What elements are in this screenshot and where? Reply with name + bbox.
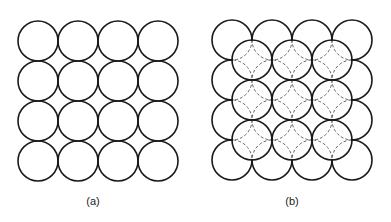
upper-circle [272,80,312,120]
upper-circle [312,80,352,120]
circle-packing-diagram [0,0,391,222]
lower-circle [212,20,252,60]
circle [138,141,178,181]
lower-circle [252,140,292,180]
upper-circle [232,40,272,80]
circle [98,61,138,101]
lower-circle [292,100,332,140]
upper-layer-circles [232,40,352,160]
circle [18,141,58,181]
upper-circle [232,120,272,160]
circle [138,61,178,101]
panel-a-square-packing [18,21,178,181]
lower-circle [292,20,332,60]
upper-circle [312,120,352,160]
circle [98,21,138,61]
circle [58,21,98,61]
lower-circle [212,100,252,140]
lower-circle [332,100,372,140]
lower-circle [212,60,252,100]
upper-circle [312,40,352,80]
circle [58,141,98,181]
lower-circle [252,60,292,100]
circle [58,101,98,141]
upper-circle [272,40,312,80]
circle [58,61,98,101]
panel-b-layered-packing [212,20,372,180]
upper-circle [272,120,312,160]
lower-circle [332,140,372,180]
circle [98,141,138,181]
lower-circle [252,20,292,60]
circle [138,21,178,61]
lower-circle [332,60,372,100]
panel-a-label: (a) [73,195,113,207]
circle [18,61,58,101]
circle [18,101,58,141]
upper-circle [232,80,272,120]
circle [18,21,58,61]
lower-circle [292,60,332,100]
lower-circle [332,20,372,60]
lower-circle [292,140,332,180]
circle [138,101,178,141]
lower-circle [252,100,292,140]
circle [98,101,138,141]
lower-circle [212,140,252,180]
panel-b-label: (b) [272,195,312,207]
lower-layer-circles [212,20,372,180]
